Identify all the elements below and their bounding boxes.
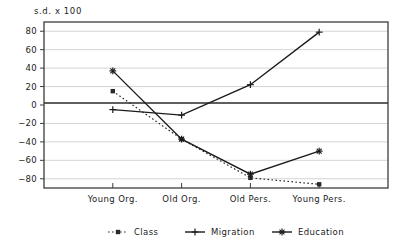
chart-plot-area: 806040200−20−40−60−80 Young Org.Old Org.…	[0, 0, 404, 250]
legend-item-migration[interactable]: Migration	[185, 227, 255, 237]
legend-item-class[interactable]: Class	[108, 227, 159, 237]
data-point-marker-plus	[178, 112, 185, 119]
legend-item-label: Class	[134, 227, 159, 237]
plot-frame	[44, 22, 388, 188]
data-point-marker-square	[111, 89, 115, 93]
data-point-marker-asterisk	[109, 67, 116, 74]
y-axis-tick-label: −20	[18, 118, 37, 128]
series-group	[109, 29, 322, 187]
data-point-marker-square	[116, 230, 120, 234]
y-axis-tick-label: −80	[18, 174, 37, 184]
data-point-marker-asterisk	[316, 148, 323, 155]
y-axis-tick-label: 80	[26, 26, 37, 36]
y-axis-tick-label: 60	[26, 45, 37, 55]
legend-item-label: Education	[298, 227, 344, 237]
data-point-marker-asterisk	[247, 171, 254, 178]
data-point-marker-asterisk	[279, 229, 286, 236]
legend: ClassMigrationEducation	[108, 227, 344, 237]
x-axis-tick-label: Old Org.	[162, 194, 200, 204]
x-axis-ticks-group	[113, 183, 319, 188]
x-axis-tick-label: Young Pers.	[292, 194, 346, 204]
series-line-class	[113, 91, 319, 184]
chart-root: s.d. x 100 806040200−20−40−60−80 Young O…	[0, 0, 404, 250]
y-axis-tick-label: 40	[26, 63, 37, 73]
data-point-marker-asterisk	[178, 136, 185, 143]
x-axis-tick-label: Old Pers.	[230, 194, 271, 204]
y-axis-tick-label: −40	[18, 137, 37, 147]
x-axis-tick-label: Young Org.	[87, 194, 138, 204]
y-axis-tick-label: −60	[18, 155, 37, 165]
y-axis-tick-label: 20	[26, 82, 37, 92]
legend-item-label: Migration	[211, 227, 255, 237]
y-axis-tick-label: 0	[31, 100, 37, 110]
x-axis-labels-group: Young Org.Old Org.Old Pers.Young Pers.	[87, 194, 346, 204]
data-point-marker-plus	[192, 229, 199, 236]
data-point-marker-square	[317, 182, 321, 186]
legend-item-education[interactable]: Education	[272, 227, 344, 237]
data-point-marker-plus	[109, 106, 116, 113]
y-axis-labels-group: 806040200−20−40−60−80	[18, 26, 37, 184]
